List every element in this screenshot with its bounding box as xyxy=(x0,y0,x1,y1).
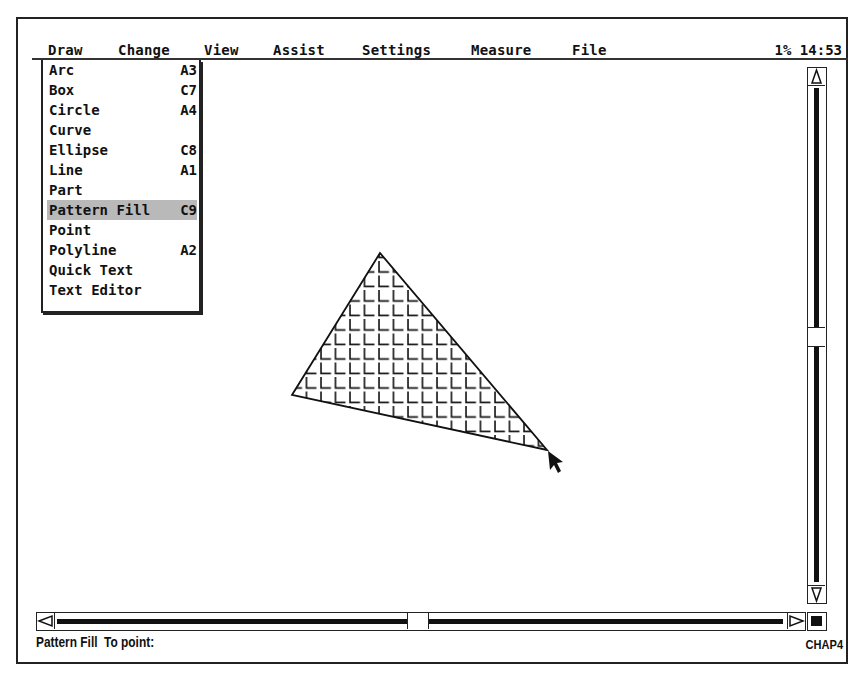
scroll-left-button[interactable] xyxy=(37,613,55,629)
menu-item-label: Polyline xyxy=(49,240,116,260)
menu-item-label: Quick Text xyxy=(49,260,133,280)
active-command: Pattern Fill xyxy=(36,634,98,650)
menu-item-label: Point xyxy=(49,220,91,240)
document-name: CHAP4 xyxy=(806,637,843,652)
menu-item-circle[interactable]: CircleA4 xyxy=(47,100,197,120)
arrow-left-icon xyxy=(37,613,54,629)
scroll-right-button[interactable] xyxy=(787,613,805,629)
menu-item-label: Box xyxy=(49,80,74,100)
scrollbar-corner-box xyxy=(807,612,827,631)
menu-item-shortcut: A3 xyxy=(180,60,197,80)
arrow-right-icon xyxy=(788,613,805,629)
vertical-scroll-thumb[interactable] xyxy=(808,327,825,347)
menu-item-label: Pattern Fill xyxy=(49,200,150,220)
horizontal-scrollbar[interactable] xyxy=(36,612,806,631)
menu-item-label: Circle xyxy=(49,100,100,120)
scroll-down-button[interactable] xyxy=(808,585,825,603)
draw-menu-dropdown: ArcA3 BoxC7 CircleA4 Curve EllipseC8 Lin… xyxy=(41,60,201,313)
menu-item-label: Ellipse xyxy=(49,140,108,160)
menu-item-label: Line xyxy=(49,160,83,180)
menu-item-shortcut: A4 xyxy=(180,100,197,120)
command-prompt: To point: xyxy=(104,634,154,650)
menu-item-ellipse[interactable]: EllipseC8 xyxy=(47,140,197,160)
command-prompt-line: Pattern Fill To point: xyxy=(36,634,154,650)
arrow-up-icon xyxy=(808,68,825,85)
menu-item-point[interactable]: Point xyxy=(47,220,197,240)
menu-item-curve[interactable]: Curve xyxy=(47,120,197,140)
menu-item-label: Arc xyxy=(49,60,74,80)
arrow-down-icon xyxy=(808,586,825,603)
vertical-scrollbar[interactable] xyxy=(807,67,827,604)
menu-item-label: Text Editor xyxy=(49,280,142,300)
menu-item-shortcut: C9 xyxy=(180,200,197,220)
pattern-filled-triangle[interactable] xyxy=(280,245,560,460)
menu-item-label: Part xyxy=(49,180,83,200)
menu-item-shortcut: A2 xyxy=(180,240,197,260)
menu-item-shortcut: C7 xyxy=(180,80,197,100)
menu-item-text-editor[interactable]: Text Editor xyxy=(47,280,197,300)
menu-item-shortcut: A1 xyxy=(180,160,197,180)
arrow-cursor-icon xyxy=(548,451,563,473)
menu-item-arc[interactable]: ArcA3 xyxy=(47,60,197,80)
menu-item-label: Curve xyxy=(49,120,91,140)
menu-item-part[interactable]: Part xyxy=(47,180,197,200)
menu-item-quick-text[interactable]: Quick Text xyxy=(47,260,197,280)
horizontal-scroll-thumb[interactable] xyxy=(407,613,429,629)
menu-item-pattern-fill[interactable]: Pattern FillC9 xyxy=(47,200,197,220)
scroll-up-button[interactable] xyxy=(808,68,825,86)
menu-item-box[interactable]: BoxC7 xyxy=(47,80,197,100)
menu-item-polyline[interactable]: PolylineA2 xyxy=(47,240,197,260)
menu-item-shortcut: C8 xyxy=(180,140,197,160)
menu-item-line[interactable]: LineA1 xyxy=(47,160,197,180)
